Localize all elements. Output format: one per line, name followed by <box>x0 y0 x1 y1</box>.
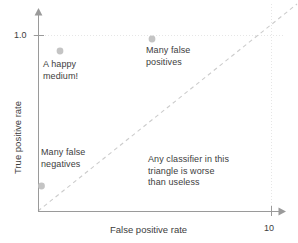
point-many-false-negatives <box>38 183 45 190</box>
plot-canvas <box>0 0 298 243</box>
x-axis-tick-label-10: 10 <box>264 223 274 233</box>
annotation-many-false-negatives-line2: negatives <box>41 159 85 171</box>
y-axis-tick-label-1: 1.0 <box>14 30 27 40</box>
roc-curve-figure: 1.0 10 True positive rate False positive… <box>0 0 298 243</box>
annotation-many-false-positives-line1: Many false <box>146 45 190 57</box>
y-axis-title: True positive rate <box>12 101 23 174</box>
annotation-a-happy-medium-line1: A happy <box>43 59 78 71</box>
annotation-many-false-positives: Many false positives <box>146 45 190 68</box>
annotation-worse-than-useless: Any classifier in this triangle is worse… <box>148 154 229 189</box>
annotation-worse-than-useless-line2: triangle is worse <box>148 166 229 178</box>
annotation-many-false-positives-line2: positives <box>146 57 190 69</box>
annotation-worse-than-useless-line3: than useless <box>148 177 229 189</box>
x-axis-title: False positive rate <box>110 224 187 235</box>
x-axis-arrowhead <box>279 208 287 216</box>
annotation-many-false-negatives: Many false negatives <box>41 147 85 170</box>
y-axis-arrowhead <box>35 8 43 16</box>
annotation-a-happy-medium-line2: medium! <box>43 71 78 83</box>
point-many-false-positives <box>149 36 156 43</box>
point-a-happy-medium <box>57 48 64 55</box>
annotation-a-happy-medium: A happy medium! <box>43 59 78 82</box>
annotation-many-false-negatives-line1: Many false <box>41 147 85 159</box>
annotation-worse-than-useless-line1: Any classifier in this <box>148 154 229 166</box>
